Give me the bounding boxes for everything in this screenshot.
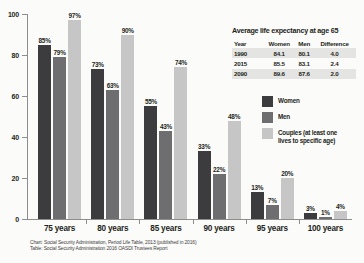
- bar-group: 13%7%20%95 years: [246, 178, 299, 219]
- y-axis-label: 60: [12, 93, 19, 100]
- table-cell: 80.1: [295, 48, 313, 58]
- table-cell: 89.6: [263, 69, 295, 79]
- x-axis-category-label: 90 years: [203, 224, 234, 233]
- bar-women: 73%: [91, 69, 104, 219]
- bar-value-label: 97%: [69, 12, 81, 19]
- legend-label: Men: [278, 112, 290, 121]
- table-head: YearWomenMenDifference: [232, 38, 356, 48]
- bar-women: 13%: [251, 192, 264, 219]
- bar-value-label: 63%: [107, 82, 119, 89]
- x-axis-category-label: 100 years: [308, 224, 344, 233]
- bar-value-label: 33%: [198, 143, 210, 150]
- table-body: 199084.180.14.0201585.583.12.4209089.687…: [232, 48, 356, 79]
- bar-women: 85%: [38, 45, 51, 219]
- table-column-header: Men: [295, 38, 313, 48]
- legend-swatch-icon: [262, 112, 273, 123]
- legend-swatch-icon: [262, 96, 273, 107]
- bar-value-label: 13%: [251, 184, 263, 191]
- table-title: Average life expectancy at age 65: [232, 26, 356, 35]
- x-axis-category-label: 95 years: [257, 224, 288, 233]
- legend-label: Women: [278, 96, 300, 105]
- bar-group: 3%1%4%100 years: [299, 211, 352, 219]
- table-cell: 83.1: [295, 58, 313, 68]
- y-axis-label: 100: [8, 11, 19, 18]
- table-cell: 4.0: [313, 48, 356, 58]
- table-cell: 2.0: [313, 69, 356, 79]
- table-cell: 84.1: [263, 48, 295, 58]
- bar-value-label: 79%: [54, 49, 66, 56]
- bar-value-label: 73%: [92, 61, 104, 68]
- bar-value-label: 55%: [145, 98, 157, 105]
- bar-value-label: 7%: [268, 197, 277, 204]
- bar-women: 3%: [304, 213, 317, 219]
- table-column-header: Women: [263, 38, 295, 48]
- bar-men: 1%: [319, 217, 332, 219]
- y-tick: [22, 219, 27, 220]
- y-tick: [22, 55, 27, 56]
- bar-group: 85%79%97%75 years: [33, 20, 86, 219]
- x-axis-divider: [86, 219, 87, 224]
- bar-couples: 4%: [334, 211, 347, 219]
- bar-value-label: 48%: [228, 113, 240, 120]
- x-axis-category-label: 75 years: [44, 224, 75, 233]
- table: YearWomenMenDifference 199084.180.14.020…: [232, 38, 356, 79]
- bar-value-label: 22%: [213, 166, 225, 173]
- bar-men: 7%: [266, 205, 279, 219]
- bar-value-label: 90%: [122, 27, 134, 34]
- x-axis-divider: [193, 219, 194, 224]
- source-note-table: Table: Social Security Administration 20…: [30, 246, 197, 252]
- table-cell: 1990: [232, 48, 263, 58]
- y-tick: [22, 178, 27, 179]
- x-axis-divider: [299, 219, 300, 224]
- bar-men: 63%: [106, 90, 119, 219]
- x-axis-divider: [246, 219, 247, 224]
- bar-value-label: 3%: [306, 205, 315, 212]
- bar-couples: 48%: [228, 121, 241, 219]
- table-column-header: Difference: [313, 38, 356, 48]
- y-tick: [22, 137, 27, 138]
- bar-men: 79%: [53, 57, 66, 219]
- legend-swatch-icon: [262, 128, 273, 139]
- table-cell: 2.4: [313, 58, 356, 68]
- chart-figure: 100806040200 85%79%97%75 years73%63%90%8…: [0, 0, 364, 263]
- bar-men: 22%: [213, 174, 226, 219]
- x-axis-category-label: 80 years: [97, 224, 128, 233]
- table-cell: 87.6: [295, 69, 313, 79]
- table-header-row: YearWomenMenDifference: [232, 38, 356, 48]
- bar-value-label: 74%: [175, 59, 187, 66]
- y-axis-label: 80: [12, 52, 19, 59]
- bar-value-label: 85%: [39, 37, 51, 44]
- bar-value-label: 20%: [281, 170, 293, 177]
- legend-item: Men: [262, 112, 362, 123]
- legend-item: Women: [262, 96, 362, 107]
- bar-men: 43%: [159, 131, 172, 219]
- y-axis-label: 0: [15, 216, 19, 223]
- table-row: 201585.583.12.4: [232, 58, 356, 68]
- source-note-chart: Chart: Social Security Administration, P…: [30, 240, 197, 246]
- bar-group: 73%63%90%80 years: [86, 35, 139, 220]
- y-axis-label: 40: [12, 134, 19, 141]
- life-expectancy-table: Average life expectancy at age 65 YearWo…: [232, 26, 356, 79]
- bar-couples: 74%: [174, 67, 187, 219]
- bar-value-label: 43%: [160, 123, 172, 130]
- source-notes: Chart: Social Security Administration, P…: [30, 240, 197, 252]
- bar-women: 33%: [198, 151, 211, 219]
- chart-legend: WomenMenCouples (at least onelives to sp…: [262, 96, 362, 149]
- table-cell: 2090: [232, 69, 263, 79]
- bar-group: 33%22%48%90 years: [193, 121, 246, 219]
- y-axis-line: [27, 14, 28, 220]
- bar-couples: 90%: [121, 35, 134, 220]
- table-row: 209089.687.62.0: [232, 69, 356, 79]
- x-axis-category-label: 85 years: [150, 224, 181, 233]
- table-row: 199084.180.14.0: [232, 48, 356, 58]
- bar-couples: 97%: [68, 20, 81, 219]
- legend-item: Couples (at least onelives to specific a…: [262, 128, 362, 144]
- bar-value-label: 4%: [336, 203, 345, 210]
- bar-couples: 20%: [281, 178, 294, 219]
- y-tick: [22, 14, 27, 15]
- y-axis-label: 20: [12, 175, 19, 182]
- x-axis-divider: [139, 219, 140, 224]
- table-column-header: Year: [232, 38, 263, 48]
- x-axis-line: [27, 219, 352, 220]
- bar-women: 55%: [144, 106, 157, 219]
